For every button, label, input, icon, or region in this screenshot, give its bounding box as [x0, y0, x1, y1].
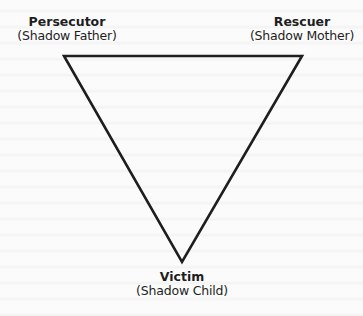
role-title: Victim [127, 270, 237, 284]
vertex-label-persecutor: Persecutor (Shadow Father) [12, 15, 122, 43]
shadow-subtitle: (Shadow Child) [127, 284, 237, 298]
role-title: Rescuer [247, 15, 357, 29]
shadow-subtitle: (Shadow Father) [12, 29, 122, 43]
role-title: Persecutor [12, 15, 122, 29]
vertex-label-rescuer: Rescuer (Shadow Mother) [247, 15, 357, 43]
shadow-subtitle: (Shadow Mother) [247, 29, 357, 43]
triangle-outline [64, 56, 302, 262]
vertex-label-victim: Victim (Shadow Child) [127, 270, 237, 298]
